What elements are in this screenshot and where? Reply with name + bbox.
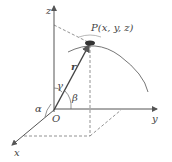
beta-label: β [71,92,78,103]
dashed-projections [24,25,121,136]
r-label: r [71,61,77,72]
x-label: x [14,147,20,158]
diagram: z y x P(x, y, z) r O γ β α [0,0,172,162]
x-axis [12,110,54,145]
gamma-label: γ [57,80,63,91]
origin-label: O [52,113,60,124]
coordinate-diagram: z y x P(x, y, z) r O γ β α [0,0,172,162]
object-at-p-icon [85,41,95,46]
point-label: P(x, y, z) [90,22,134,33]
y-label: y [151,113,158,124]
beta-arc [65,91,71,109]
trajectory-curve [68,46,148,92]
alpha-label: α [35,103,42,114]
z-label: z [45,5,52,16]
